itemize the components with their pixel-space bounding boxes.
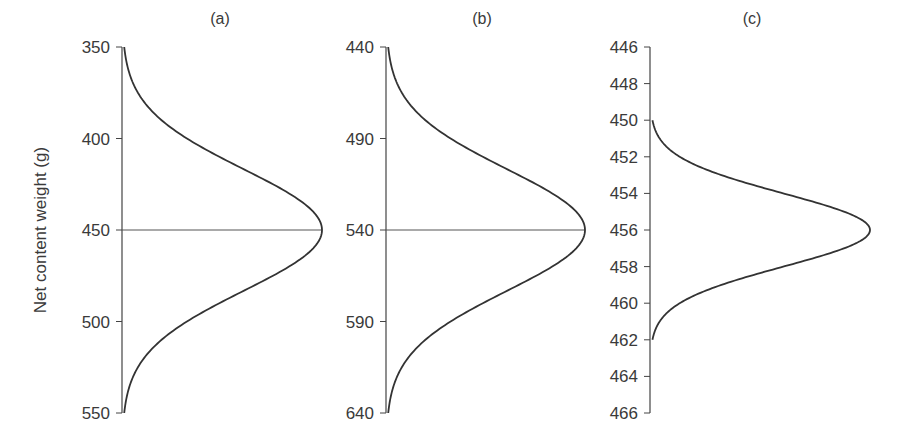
tick-label: 590	[346, 313, 374, 332]
panel-b-label: (b)	[472, 10, 492, 27]
tick-label: 540	[346, 221, 374, 240]
y-axis-title: Net content weight (g)	[31, 147, 50, 313]
tick-label: 458	[610, 258, 638, 277]
tick-label: 464	[610, 367, 638, 386]
chart-canvas: Net content weight (g) (a) 350 400 450 5…	[0, 0, 899, 439]
panel-c-ticks	[644, 47, 650, 413]
tick-label: 448	[610, 75, 638, 94]
panel-c-label: (c)	[743, 10, 762, 27]
tick-label: 452	[610, 148, 638, 167]
tick-label: 450	[610, 111, 638, 130]
tick-label: 640	[346, 404, 374, 423]
tick-label: 350	[82, 38, 110, 57]
tick-label: 454	[610, 184, 638, 203]
panel-c-tick-labels: 446448450452454456458460462464466	[610, 38, 638, 423]
tick-label: 456	[610, 221, 638, 240]
tick-label: 450	[82, 221, 110, 240]
tick-label: 490	[346, 130, 374, 149]
tick-label: 446	[610, 38, 638, 57]
panel-a-ticks	[116, 47, 122, 413]
panel-b-ticks	[380, 47, 386, 413]
panel-b: (b) 440 490 540 590 640	[346, 10, 585, 423]
panel-c-distribution-curve	[652, 120, 870, 340]
tick-label: 460	[610, 294, 638, 313]
tick-label: 500	[82, 313, 110, 332]
tick-label: 550	[82, 404, 110, 423]
tick-label: 400	[82, 130, 110, 149]
panel-a: (a) 350 400 450 500 550	[82, 10, 322, 423]
tick-label: 462	[610, 331, 638, 350]
tick-label: 440	[346, 38, 374, 57]
tick-label: 466	[610, 404, 638, 423]
panel-a-label: (a)	[210, 10, 230, 27]
panel-c: (c) 446448450452454456458460462464466	[610, 10, 870, 423]
